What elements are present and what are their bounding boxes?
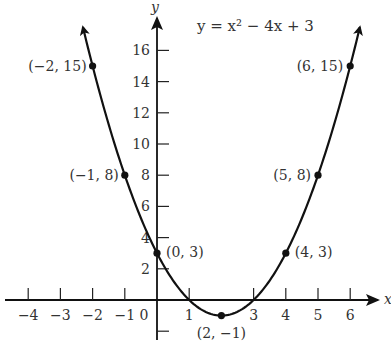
x-tick-label: 4 (281, 307, 290, 323)
y-tick-label: 16 (132, 42, 150, 58)
tick-marks: −4−3−2−1013456246810121416 (18, 42, 355, 331)
point-label: (4, 3) (295, 244, 333, 260)
x-tick-label: 1 (185, 307, 194, 323)
y-tick-label: 8 (141, 167, 150, 183)
y-tick-label: 10 (132, 136, 150, 152)
x-tick-label: −4 (18, 307, 39, 323)
data-point (218, 312, 225, 319)
y-tick-label: 12 (132, 105, 150, 121)
data-point (314, 172, 321, 179)
x-axis-label: x (384, 291, 391, 307)
parabola-chart: xy −4−3−2−1013456246810121416 (−2, 15)(−… (0, 0, 391, 346)
x-tick-label: −3 (50, 307, 71, 323)
y-tick-label: 14 (132, 74, 150, 90)
point-label: (−2, 15) (28, 58, 86, 74)
chart-title: y = x² − 4x + 3 (196, 17, 314, 35)
point-label: (2, −1) (197, 325, 246, 341)
point-label: (−1, 8) (69, 167, 118, 183)
y-axis-label: y (150, 0, 160, 15)
data-point (282, 250, 289, 257)
x-tick-label: −2 (82, 307, 103, 323)
x-tick-label: −1 (114, 307, 135, 323)
axes: xy (5, 0, 391, 340)
labeled-points: (−2, 15)(−1, 8)(0, 3)(2, −1)(4, 3)(5, 8)… (28, 58, 353, 341)
data-point (347, 62, 354, 69)
x-tick-label: 3 (249, 307, 258, 323)
point-label: (5, 8) (273, 167, 311, 183)
x-tick-label: 6 (346, 307, 355, 323)
y-tick-label: 6 (141, 198, 150, 214)
point-label: (6, 15) (297, 58, 344, 74)
data-point (121, 172, 128, 179)
data-point (89, 62, 96, 69)
x-tick-label: 0 (140, 307, 149, 323)
y-tick-label: 2 (141, 261, 150, 277)
x-tick-label: 5 (314, 307, 323, 323)
data-point (153, 250, 160, 257)
point-label: (0, 3) (166, 244, 204, 260)
